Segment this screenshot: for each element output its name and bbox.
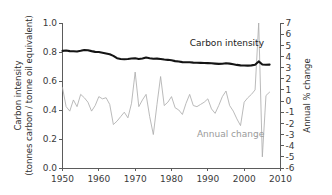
- bottom-tick-label: 1960: [87, 174, 110, 184]
- right-tick-label: 6: [286, 29, 292, 39]
- left-tick-label: 0.6: [43, 76, 58, 86]
- left-axis-title-line1: Carbon intensity: [13, 60, 23, 130]
- right-tick-label: 7: [286, 18, 292, 28]
- left-axis-title-line2: (tonnes carbon / tonne oil equivalent): [24, 15, 34, 176]
- right-tick-label: -4: [286, 141, 295, 151]
- bottom-tick-label: 1950: [51, 174, 74, 184]
- right-tick-label: -5: [286, 152, 295, 162]
- bottom-tick-label: 1970: [124, 174, 147, 184]
- right-tick-label: -6: [286, 163, 295, 173]
- left-tick-label: 1.0: [43, 18, 58, 28]
- right-tick-label: -1: [286, 107, 295, 117]
- right-axis-title: Annual % change: [302, 58, 312, 132]
- right-tick-label: 1: [286, 85, 292, 95]
- right-tick-label: 5: [286, 41, 292, 51]
- right-tick-label: 4: [286, 52, 292, 62]
- carbon-intensity-figure: 0.00.20.40.60.81.0-6-5-4-3-2-10123456719…: [0, 0, 332, 195]
- bottom-tick-label: 2000: [233, 174, 256, 184]
- right-tick-label: 0: [286, 96, 292, 106]
- right-tick-label: -3: [286, 130, 295, 140]
- right-tick-label: 3: [286, 63, 292, 73]
- carbon-intensity-line: [63, 50, 270, 66]
- left-tick-label: 0.8: [43, 47, 58, 57]
- left-tick-label: 0.2: [43, 134, 57, 144]
- bottom-tick-label: 1990: [196, 174, 219, 184]
- bottom-tick-label: 1980: [160, 174, 183, 184]
- left-tick-label: 0.4: [43, 105, 58, 115]
- right-tick-label: 2: [286, 74, 292, 84]
- right-tick-label: -2: [286, 119, 295, 129]
- carbon-intensity-series-label: Carbon intensity: [190, 38, 265, 48]
- left-tick-label: 0.0: [43, 163, 58, 173]
- annual-change-series-label: Annual change: [197, 129, 265, 139]
- bottom-tick-label: 2010: [269, 174, 292, 184]
- chart-canvas: 0.00.20.40.60.81.0-6-5-4-3-2-10123456719…: [0, 0, 332, 195]
